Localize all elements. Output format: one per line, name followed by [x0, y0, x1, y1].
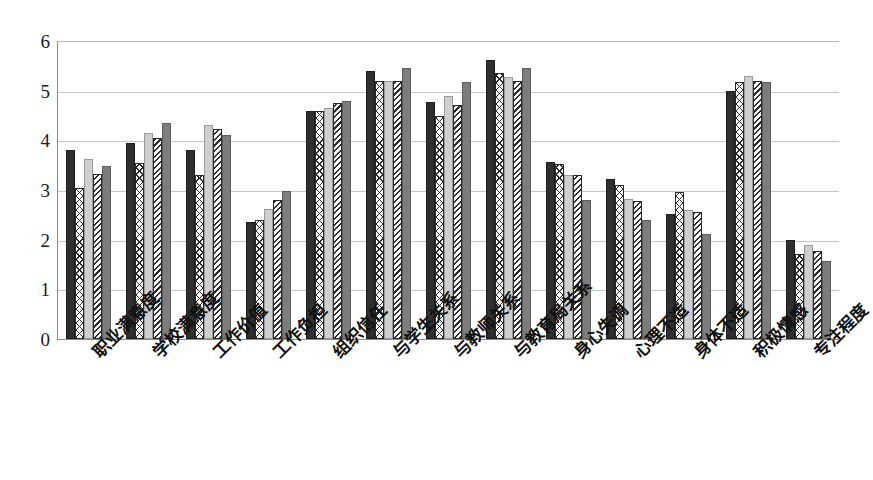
bar: [762, 82, 771, 339]
x-label-slot: 与学生关系: [358, 341, 418, 480]
bar: [75, 188, 84, 339]
bar: [582, 200, 591, 339]
bar: [324, 108, 333, 339]
bar: [522, 68, 531, 339]
x-label-slot: 与教育局关系: [479, 341, 539, 480]
bar-group: [238, 41, 298, 339]
bar: [813, 251, 822, 339]
bar: [273, 200, 282, 339]
bar: [753, 81, 762, 339]
bar: [282, 191, 291, 339]
bar: [66, 150, 75, 339]
x-label-slot: 身心失调: [539, 341, 599, 480]
x-label-slot: 学校满意度: [118, 341, 178, 480]
x-label-slot: 工作价值: [178, 341, 238, 480]
y-tick-label: 5: [8, 81, 50, 100]
bar: [573, 175, 582, 339]
bar: [84, 159, 93, 339]
bar: [462, 82, 471, 339]
bar-group: [719, 41, 779, 339]
x-axis-labels: 职业满意度学校满意度工作价值工作负担组织信任与学生关系与教师关系与教育局关系身心…: [58, 341, 839, 480]
bar: [93, 174, 102, 339]
bar: [162, 123, 171, 339]
bar-group: [298, 41, 358, 339]
bar: [102, 166, 111, 339]
bar: [222, 135, 231, 339]
x-label-slot: 与教师关系: [418, 341, 478, 480]
x-label-slot: 心理不适: [599, 341, 659, 480]
bar: [342, 101, 351, 339]
y-axis: 0123456: [0, 0, 50, 480]
bar: [633, 201, 642, 339]
y-tick-label: 4: [8, 131, 50, 150]
x-label-slot: 身体不适: [659, 341, 719, 480]
x-label-slot: 积极情感: [719, 341, 779, 480]
y-tick-label: 6: [8, 32, 50, 51]
bar-group: [58, 41, 118, 339]
bar: [804, 245, 813, 339]
bar-group: [599, 41, 659, 339]
x-label-slot: 工作负担: [238, 341, 298, 480]
y-tick-label: 2: [8, 230, 50, 249]
y-tick-label: 1: [8, 280, 50, 299]
bar: [693, 212, 702, 339]
bar-group: [779, 41, 839, 339]
bar: [384, 81, 393, 339]
x-label-slot: 专注程度: [779, 341, 839, 480]
bar: [744, 76, 753, 339]
bar-group: [659, 41, 719, 339]
y-tick-label: 0: [8, 330, 50, 349]
bar: [333, 103, 342, 339]
y-tick-label: 3: [8, 181, 50, 200]
cropped-caption-text: [18, 0, 838, 12]
x-label-slot: 职业满意度: [58, 341, 118, 480]
x-label-slot: 组织信任: [298, 341, 358, 480]
bar-group: [358, 41, 418, 339]
bar: [402, 68, 411, 339]
bar: [393, 81, 402, 339]
